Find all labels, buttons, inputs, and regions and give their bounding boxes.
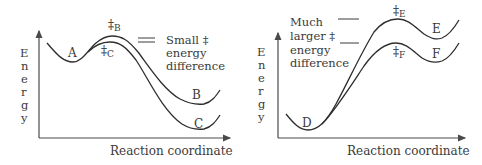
label-product-c: C bbox=[194, 117, 203, 131]
label-d: D bbox=[302, 116, 312, 130]
svg-text:y: y bbox=[20, 111, 28, 125]
svg-text:difference: difference bbox=[290, 56, 349, 70]
svg-text:difference: difference bbox=[166, 59, 225, 73]
svg-text:g: g bbox=[21, 98, 29, 112]
svg-text:energy: energy bbox=[166, 46, 207, 60]
label-product-b: B bbox=[192, 88, 201, 102]
svg-text:e: e bbox=[21, 72, 28, 86]
left-energy-diagram: A ‡B ‡C B C Small ‡ energy difference E … bbox=[20, 18, 233, 158]
svg-text:energy: energy bbox=[290, 43, 331, 57]
small-difference-annotation: Small ‡ energy difference bbox=[166, 33, 225, 73]
ts-b-label: ‡B bbox=[108, 18, 121, 33]
right-energy-diagram: D ‡E ‡F E F Much larger ‡ energy differe… bbox=[257, 4, 470, 158]
svg-text:y: y bbox=[257, 110, 265, 124]
svg-text:e: e bbox=[258, 71, 265, 85]
left-y-axis-label: E n e r g y bbox=[20, 46, 29, 125]
svg-text:r: r bbox=[258, 84, 264, 98]
svg-text:n: n bbox=[258, 58, 266, 72]
right-x-axis-label: Reaction coordinate bbox=[347, 144, 470, 158]
label-product-e: E bbox=[432, 22, 441, 36]
svg-text:Small ‡: Small ‡ bbox=[166, 33, 209, 47]
left-x-axis-label: Reaction coordinate bbox=[110, 144, 233, 158]
ts-e-label: ‡E bbox=[393, 4, 406, 19]
ts-c-label: ‡C bbox=[101, 44, 114, 59]
svg-text:g: g bbox=[258, 97, 266, 111]
label-a: A bbox=[67, 46, 77, 60]
energy-diagrams: A ‡B ‡C B C Small ‡ energy difference E … bbox=[0, 0, 482, 165]
svg-text:E: E bbox=[20, 46, 28, 60]
label-product-f: F bbox=[432, 47, 440, 61]
svg-text:n: n bbox=[21, 59, 29, 73]
svg-text:larger ‡: larger ‡ bbox=[290, 29, 335, 43]
ts-f-label: ‡F bbox=[393, 45, 405, 60]
svg-text:r: r bbox=[21, 85, 27, 99]
svg-text:E: E bbox=[257, 45, 265, 59]
right-y-axis-label: E n e r g y bbox=[257, 45, 266, 124]
svg-text:Much: Much bbox=[290, 15, 324, 29]
